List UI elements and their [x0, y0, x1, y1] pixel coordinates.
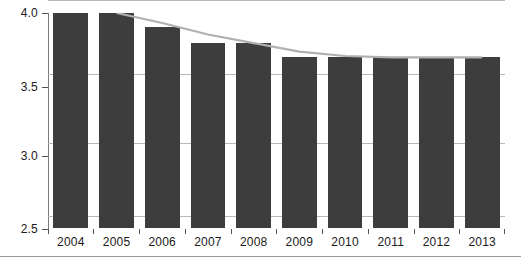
y-axis-label-4-0: 4.0	[0, 6, 38, 20]
x-axis-label-2010: 2010	[322, 235, 368, 249]
table-row	[236, 43, 271, 228]
x-axis-label-2006: 2006	[139, 235, 185, 249]
bars-layer	[48, 13, 505, 228]
x-axis-label-2009: 2009	[277, 235, 323, 249]
x-axis-label-2011: 2011	[368, 235, 414, 249]
x-tick-mark-6	[322, 229, 323, 234]
y-axis-label-3-5: 3.5	[0, 80, 38, 94]
x-axis-label-2007: 2007	[185, 235, 231, 249]
x-tick-mark-5	[276, 229, 277, 234]
x-tick-mark-0	[48, 229, 49, 234]
bar-chart: 4.0 3.5 3.0 2.5 2004 2005 2006 2007 2008…	[0, 0, 521, 262]
x-tick-mark-8	[414, 229, 415, 234]
x-tick-mark-4	[231, 229, 232, 234]
table-row	[419, 57, 454, 228]
x-tick-mark-10	[504, 229, 505, 234]
table-row	[53, 13, 88, 228]
x-axis-label-2008: 2008	[231, 235, 277, 249]
table-row	[282, 57, 317, 228]
y-axis-label-2-5: 2.5	[0, 222, 38, 236]
x-axis-label-2005: 2005	[94, 235, 140, 249]
table-row	[99, 13, 134, 228]
gridline-4-0	[48, 0, 505, 1]
footer-divider	[0, 256, 521, 257]
table-row	[465, 57, 500, 228]
x-tick-mark-1	[93, 229, 94, 234]
x-tick-mark-9	[459, 229, 460, 234]
x-axis-label-2013: 2013	[459, 235, 505, 249]
x-axis-label-2012: 2012	[414, 235, 460, 249]
x-axis-labels: 2004 2005 2006 2007 2008 2009 2010 2011 …	[48, 235, 505, 251]
y-axis-label-3-0: 3.0	[0, 149, 38, 163]
x-tick-mark-2	[139, 229, 140, 234]
table-row	[145, 27, 180, 228]
table-row	[191, 43, 226, 228]
x-tick-mark-3	[185, 229, 186, 234]
table-row	[373, 57, 408, 228]
x-tick-mark-7	[368, 229, 369, 234]
table-row	[328, 57, 363, 228]
x-axis-label-2004: 2004	[48, 235, 94, 249]
